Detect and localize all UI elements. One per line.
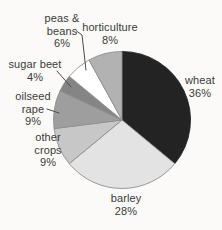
label-line: oilseed: [15, 90, 51, 103]
label-pct: 9%: [15, 115, 51, 128]
label-pct: 28%: [111, 205, 142, 218]
label-oilseed-rape: oilseed rape 9%: [15, 90, 51, 128]
label-line: peas &: [45, 12, 80, 25]
label-line: horticulture: [82, 21, 138, 34]
label-other-crops: other crops 9%: [34, 131, 61, 169]
label-sugar-beet: sugar beet 4%: [9, 58, 62, 83]
label-line: other: [34, 131, 61, 144]
label-barley: barley 28%: [111, 192, 142, 217]
label-line: crops: [34, 144, 61, 157]
label-line: rape: [15, 103, 51, 116]
label-line: beans: [45, 25, 80, 38]
label-pct: 9%: [34, 156, 61, 169]
label-pct: 36%: [185, 87, 215, 100]
label-horticulture: horticulture 8%: [82, 21, 138, 46]
label-pct: 6%: [45, 37, 80, 50]
label-line: barley: [111, 192, 142, 205]
pie-slices: [53, 52, 190, 189]
label-pct: 8%: [82, 34, 138, 47]
label-line: sugar beet: [9, 58, 62, 71]
label-wheat: wheat 36%: [185, 74, 215, 99]
label-pct: 4%: [9, 71, 62, 84]
label-line: wheat: [185, 74, 215, 87]
pie-figure: peas & beans 6% horticulture 8% wheat 36…: [0, 0, 222, 230]
label-peas-beans: peas & beans 6%: [45, 12, 80, 50]
